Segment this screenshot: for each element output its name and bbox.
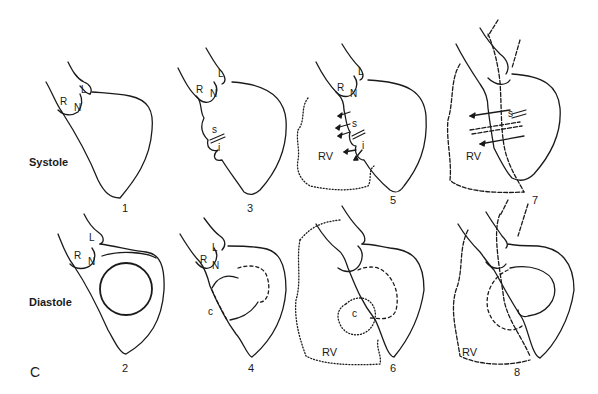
cusp-label-n: N (212, 260, 219, 271)
cusp-label-r: R (200, 254, 207, 265)
structure-label-rv: RV (318, 150, 333, 162)
panel-7-drawing (448, 20, 561, 193)
panel-3-drawing (178, 48, 286, 194)
cusp-label-r: R (337, 82, 344, 93)
structure-label-i: i (362, 140, 364, 151)
structure-label-rv: RV (322, 346, 337, 358)
structure-label-s: s (352, 118, 357, 129)
cusp-label-l: L (89, 232, 95, 243)
cusp-label-l: L (358, 66, 364, 77)
panel-number-5: 5 (390, 194, 396, 206)
structure-label-s: s (212, 124, 217, 135)
cusp-label-n: N (88, 256, 95, 267)
cusp-label-n: N (210, 88, 217, 99)
structure-label-i: i (218, 142, 220, 153)
panel-number-8: 8 (514, 366, 520, 378)
structure-label-s: s (508, 108, 513, 119)
structure-label-c: c (352, 308, 357, 319)
cusp-label-l: L (212, 242, 218, 253)
panel-number-1: 1 (122, 202, 128, 214)
structure-label-rv: RV (462, 346, 477, 358)
panel-2-drawing (58, 214, 164, 354)
row-label-systole: Systole (29, 156, 68, 168)
row-label-diastole: Diastole (29, 296, 72, 308)
panel-number-4: 4 (248, 362, 254, 374)
structure-label-rv: RV (466, 150, 481, 162)
structure-label-c: c (208, 306, 213, 317)
cusp-label-r: R (60, 96, 67, 107)
panel-number-6: 6 (390, 362, 396, 374)
panel-number-2: 2 (122, 362, 128, 374)
panel-4-drawing (180, 218, 286, 357)
diagram-canvas (0, 0, 598, 394)
panel-1-drawing (46, 62, 152, 198)
panel-number-7: 7 (532, 194, 538, 206)
panel-8-drawing (453, 200, 574, 364)
cusp-label-l: L (81, 84, 87, 95)
panel-6-drawing (296, 206, 424, 365)
cusp-label-n: N (74, 102, 81, 113)
cusp-label-r: R (196, 84, 203, 95)
cusp-label-n: N (350, 88, 357, 99)
panel-number-3: 3 (247, 202, 253, 214)
panel-letter: C (30, 364, 40, 380)
cusp-label-r: R (74, 250, 81, 261)
cusp-label-l: L (218, 68, 224, 79)
